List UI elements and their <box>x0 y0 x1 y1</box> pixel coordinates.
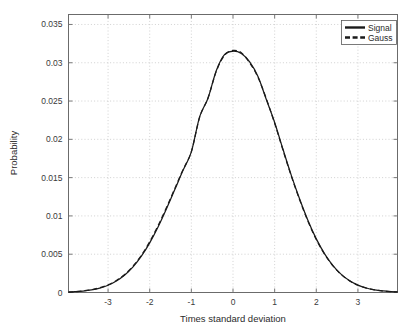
y-tick-label: 0.02 <box>46 134 63 144</box>
x-tick-label: -3 <box>104 297 112 307</box>
legend-label-signal: Signal <box>368 23 392 33</box>
y-tick-label: 0.01 <box>46 211 63 221</box>
x-tick-label: -1 <box>188 297 196 307</box>
chart-legend[interactable]: Signal Gauss <box>342 21 397 45</box>
x-tick-label: 1 <box>272 297 277 307</box>
y-tick-label: 0.025 <box>41 96 63 106</box>
x-tick-label: 3 <box>356 297 361 307</box>
x-tick-label: 0 <box>231 297 236 307</box>
y-tick-label: 0.035 <box>41 19 63 29</box>
y-tick-label: 0.015 <box>41 173 63 183</box>
y-tick-label: 0.005 <box>41 249 63 259</box>
x-tick-label: -2 <box>146 297 154 307</box>
y-tick-label: 0.03 <box>46 58 63 68</box>
x-tick-label: 2 <box>314 297 319 307</box>
probability-distribution-chart: -3-2-10123 00.0050.010.0150.020.0250.030… <box>0 0 420 333</box>
y-axis-title: Probability <box>8 131 19 176</box>
x-axis-title: Times standard deviation <box>180 313 286 324</box>
legend-label-gauss: Gauss <box>368 33 393 43</box>
chart-figure: -3-2-10123 00.0050.010.0150.020.0250.030… <box>0 0 420 333</box>
figure-background <box>0 0 420 333</box>
y-tick-label: 0 <box>58 288 63 298</box>
